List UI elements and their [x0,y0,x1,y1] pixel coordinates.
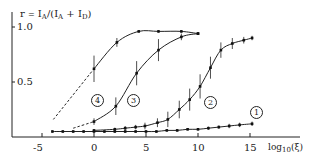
data-point [115,105,118,108]
data-point [251,123,254,126]
ylabel-eq: = [28,10,35,19]
data-point [218,126,221,129]
data-point [238,124,241,127]
series-3-line [94,34,198,122]
xtick-label-0: 0 [91,143,97,153]
data-point [167,118,170,121]
data-point [199,85,202,88]
data-point [155,130,158,133]
data-point [231,42,234,45]
data-point [135,72,138,75]
data-point [145,130,148,133]
y-axis-label: r = IA/(IA + ID) [20,9,91,21]
xlabel-sub: 10 [282,146,291,154]
data-point [197,32,200,35]
data-point [93,120,96,123]
curve-label-2: 2 [204,96,217,109]
series-3-dashed-line [73,122,94,129]
ylabel-plus: + [63,8,78,19]
data-point [134,126,137,129]
data-point [166,129,169,132]
data-point [93,68,96,71]
xtick-label-5: 5 [143,143,149,153]
curve-label-4: 4 [91,94,104,107]
data-point [220,49,223,52]
x-axis-label: log10(ξ) [268,143,303,154]
data-point [228,125,231,128]
xlabel-arg: (ξ) [291,142,303,152]
data-point [114,128,117,131]
data-point [197,128,200,131]
data-point [207,127,210,130]
data-point [178,108,181,111]
data-point [180,30,183,33]
ylabel-r: r [20,8,25,19]
data-point [124,127,127,130]
data-point [156,121,159,124]
data-point [134,130,137,133]
data-point [242,39,245,42]
data-point [144,125,147,128]
xlabel-log: log [268,142,282,152]
series-4-dashed-line [53,69,94,120]
xtick-label-m5: -5 [33,143,43,153]
curve-label-3: 3 [127,94,140,107]
data-point [103,130,106,133]
data-point [93,129,96,132]
data-point [51,130,54,133]
data-point [176,129,179,132]
data-point [116,41,119,44]
series-2 [93,36,254,132]
chart-plot-area [0,0,310,162]
data-point [209,66,212,69]
ytick-label-05: 0.5 [17,77,33,87]
data-point [157,49,160,52]
data-point [72,130,75,133]
series-layer [51,30,253,133]
data-point [186,128,189,131]
data-point [157,30,160,33]
data-point [251,37,254,40]
series-1 [51,122,253,133]
data-point [62,130,65,133]
ylabel-close: ) [88,8,92,19]
xtick-label-15: 15 [244,143,257,153]
series-3 [73,32,199,128]
ytick-label-1: 1.0 [17,22,33,32]
series-4 [53,30,199,119]
curve-label-1: 1 [250,106,263,119]
data-point [82,130,85,133]
xtick-label-10: 10 [192,143,205,153]
data-point [124,130,127,133]
series-2-line [94,38,252,130]
data-point [188,98,191,101]
data-point [137,30,140,33]
data-point [180,36,183,39]
